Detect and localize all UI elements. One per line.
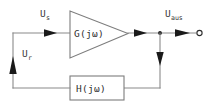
signal-feedback-sub: r <box>28 54 32 62</box>
forward-output-arrowhead <box>134 29 147 37</box>
feedback-down-arrowhead <box>156 52 163 66</box>
input-arrowhead <box>44 29 57 37</box>
signal-label-feedback: Ur <box>22 48 32 62</box>
signal-label-input: Us <box>40 8 50 22</box>
output-terminal-arrowhead <box>175 29 190 37</box>
diagram-canvas: G(jω) H(jω) <box>0 0 222 112</box>
block-diagram: G(jω) H(jω) Us Ur Uaus <box>0 0 222 112</box>
feedback-gain-label: H(jω) <box>76 83 106 94</box>
forward-gain-label: G(jω) <box>74 28 104 39</box>
open-circle-terminal <box>197 30 202 35</box>
signal-label-output: Uaus <box>165 8 183 22</box>
signal-output-sub: aus <box>171 14 183 22</box>
feedback-up-arrowhead <box>9 56 16 74</box>
signal-input-sub: s <box>46 14 50 22</box>
